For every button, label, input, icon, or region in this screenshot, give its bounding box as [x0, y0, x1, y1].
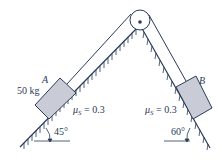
block-b-label: B [199, 75, 205, 86]
angle-60-label: 60° [171, 126, 185, 137]
angle-45-label: 45° [54, 126, 68, 137]
block-a-label: A [41, 74, 49, 85]
block-b [176, 76, 212, 119]
pulley [130, 10, 150, 30]
block-b-friction: μS = 0.3 [144, 104, 177, 117]
block-a-friction: μS = 0.3 [72, 104, 105, 117]
block-a-mass: 50 kg [17, 85, 40, 96]
incline-pulley-diagram: A 50 kg μS = 0.3 45° B μS = 0.3 60° [0, 0, 221, 164]
